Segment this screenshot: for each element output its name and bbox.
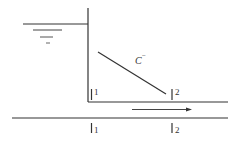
svg-text:2: 2: [175, 125, 180, 135]
upper-section-2-marker: 2: [172, 87, 180, 100]
curve-label-sup: −: [142, 52, 146, 60]
upper-section-1-marker: 1: [92, 87, 99, 100]
lower-section-1-marker: 1: [92, 123, 99, 135]
lower-section-2-marker: 2: [172, 123, 180, 135]
svg-text:1: 1: [94, 125, 99, 135]
svg-text:1: 1: [94, 87, 99, 97]
channel-diagram: C − 1 2 1 2: [0, 0, 241, 144]
svg-text:2: 2: [175, 87, 180, 97]
flow-arrow-icon: [132, 108, 192, 112]
curve-label: C: [135, 55, 142, 66]
profile-curve-line: [98, 52, 166, 94]
water-level-icon: [33, 30, 62, 43]
